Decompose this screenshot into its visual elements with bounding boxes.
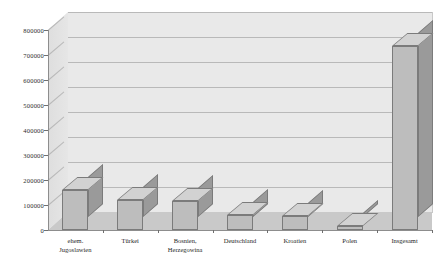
bar-front-face: [117, 200, 143, 230]
bar-column: [172, 201, 198, 230]
bar-column: [227, 215, 253, 230]
y-axis-tick-label: 600000: [23, 77, 44, 84]
bar-column: [392, 46, 418, 230]
x-axis-label: Polen: [322, 236, 377, 245]
y-axis-tick-label: 200000: [23, 177, 44, 184]
gridline: [68, 187, 432, 188]
bar-column: [117, 200, 143, 230]
bar-chart: 0100000200000300000400000500000600000700…: [0, 0, 439, 271]
x-axis-tick-mark: [267, 230, 268, 233]
bar-column: [282, 216, 308, 230]
x-axis-tick-mark: [103, 230, 104, 233]
x-axis-label: Bosnien, Herzegowina: [158, 236, 213, 254]
x-axis-label: Deutschland: [213, 236, 268, 245]
y-axis-tick-label: 100000: [23, 202, 44, 209]
x-axis-tick-mark: [158, 230, 159, 233]
gridline: [68, 137, 432, 138]
y-axis-tick-label: 300000: [23, 152, 44, 159]
x-axis-label: Türkei: [103, 236, 158, 245]
gridline: [68, 162, 432, 163]
y-axis-tick-label: 800000: [23, 27, 44, 34]
bar-front-face: [227, 215, 253, 230]
gridline: [68, 12, 432, 13]
gridline: [68, 37, 432, 38]
bar-side-face: [418, 20, 433, 217]
bar-column: [337, 226, 363, 230]
bar-front-face: [392, 46, 418, 230]
y-axis-tick-label: 700000: [23, 52, 44, 59]
x-axis-label: Insgesamt: [377, 236, 432, 245]
x-axis-label: Kroatien: [267, 236, 322, 245]
x-axis-tick-mark: [322, 230, 323, 233]
x-axis-label: ehem. Jugoslawien: [48, 236, 103, 254]
bar-column: [62, 190, 88, 230]
y-axis-tick-label: 500000: [23, 102, 44, 109]
x-axis-tick-mark: [213, 230, 214, 233]
bar-front-face: [62, 190, 88, 230]
gridline: [68, 62, 432, 63]
x-axis-line: [48, 230, 432, 231]
bar-front-face: [282, 216, 308, 230]
bar-front-face: [172, 201, 198, 230]
x-axis-tick-mark: [377, 230, 378, 233]
y-axis-line: [48, 30, 49, 230]
bar-front-face: [337, 226, 363, 230]
gridline: [68, 87, 432, 88]
y-axis-tick-label: 400000: [23, 127, 44, 134]
x-axis-tick-mark: [432, 230, 433, 233]
gridline: [68, 112, 432, 113]
